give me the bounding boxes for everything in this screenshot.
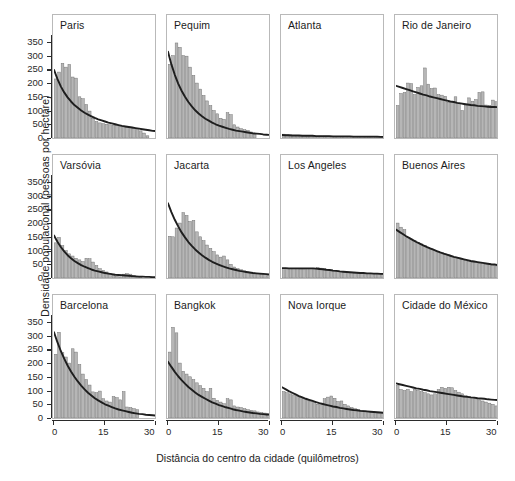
bar — [172, 237, 175, 278]
y-axis-line — [51, 175, 52, 278]
y-tick-mark — [47, 124, 51, 125]
y-tick-label: 100 — [13, 105, 43, 116]
panel-title: Cidade do México — [402, 299, 488, 311]
x-tick-mark — [332, 421, 333, 425]
bar — [303, 399, 306, 418]
bar — [299, 398, 302, 418]
bar — [223, 119, 226, 138]
panel-bangkok: Bangkok — [166, 294, 270, 419]
y-tick-label: 200 — [13, 217, 43, 228]
x-tick-label: 0 — [394, 426, 399, 437]
bar — [441, 95, 444, 138]
plot-area — [282, 175, 384, 278]
bar — [478, 263, 481, 278]
bar — [240, 129, 243, 138]
panel-title: Rio de Janeiro — [402, 19, 471, 31]
bar — [85, 104, 88, 138]
bar — [267, 275, 270, 278]
bar — [407, 83, 410, 138]
bar — [447, 255, 450, 278]
bar — [175, 228, 178, 278]
bar — [199, 386, 202, 418]
y-tick-mark — [47, 336, 51, 337]
bar — [82, 374, 85, 418]
y-tick-label: 350 — [13, 316, 43, 327]
bar — [85, 380, 88, 418]
bar — [310, 402, 313, 418]
x-tick-mark — [497, 421, 498, 425]
histogram-bars — [396, 68, 497, 138]
bar — [424, 393, 427, 418]
bar — [492, 404, 495, 418]
bar — [78, 364, 81, 418]
bar — [243, 409, 246, 418]
bar — [189, 221, 192, 278]
bar — [451, 256, 454, 278]
bar — [233, 125, 236, 138]
bar — [119, 126, 122, 138]
y-tick-mark — [47, 42, 51, 43]
plot-area — [396, 315, 498, 418]
bar — [78, 97, 81, 138]
bar — [202, 388, 205, 418]
y-tick-label: 300 — [13, 50, 43, 61]
plot-area — [168, 35, 270, 138]
bar — [320, 405, 323, 418]
bar — [282, 269, 285, 278]
y-tick-label: 150 — [13, 231, 43, 242]
bar — [333, 398, 336, 418]
bar — [61, 63, 64, 138]
panel-rio-de-janeiro: Rio de Janeiro — [394, 14, 498, 139]
bar — [441, 253, 444, 278]
bar — [313, 268, 316, 278]
bar — [102, 399, 105, 418]
panel-jacarta: Jacarta — [166, 154, 270, 279]
x-tick-mark — [104, 421, 105, 425]
panel-barcelona: Barcelona — [52, 294, 156, 419]
bar — [102, 124, 105, 138]
bar — [75, 352, 78, 418]
panel-title: Pequim — [174, 19, 210, 31]
x-tick-label: 30 — [258, 426, 269, 437]
panel-title: Barcelona — [60, 299, 108, 311]
bar — [481, 401, 484, 418]
bar — [316, 404, 319, 418]
bar — [413, 241, 416, 278]
plot-area — [54, 175, 156, 278]
x-tick-mark — [395, 421, 396, 425]
bar — [475, 399, 478, 418]
y-tick-mark — [47, 418, 51, 419]
y-tick-mark — [47, 196, 51, 197]
y-tick-label: 250 — [13, 343, 43, 354]
bar — [253, 134, 256, 138]
y-tick-label: 100 — [13, 245, 43, 256]
bar — [54, 79, 57, 138]
bar — [313, 403, 316, 418]
y-tick-mark — [47, 56, 51, 57]
bar — [99, 123, 102, 138]
bar — [471, 262, 474, 278]
y-tick-mark — [47, 223, 51, 224]
panel-buenos-aires: Buenos Aires — [394, 154, 498, 279]
bar — [437, 389, 440, 418]
panel-title: Jacarta — [174, 159, 209, 171]
bar — [478, 400, 481, 418]
bar — [371, 412, 374, 418]
bar — [492, 265, 495, 278]
y-tick-mark — [47, 264, 51, 265]
bar — [396, 106, 399, 138]
bar — [461, 394, 464, 418]
bar — [286, 393, 289, 418]
bar — [189, 377, 192, 418]
bar — [434, 88, 437, 138]
bar — [206, 245, 209, 278]
y-tick-mark — [47, 322, 51, 323]
x-tick-mark — [446, 421, 447, 425]
x-tick-label: 30 — [372, 426, 383, 437]
bar — [250, 410, 253, 418]
bar — [71, 349, 74, 418]
y-tick-label: 0 — [13, 412, 43, 423]
bar — [185, 215, 188, 278]
bar — [430, 395, 433, 418]
panel-title: Atlanta — [288, 19, 321, 31]
